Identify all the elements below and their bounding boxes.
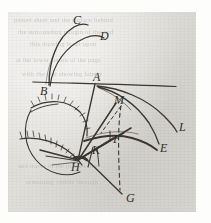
label-M: M: [113, 93, 125, 107]
arc-B-to-C: [49, 24, 88, 85]
line-H-to-G: [84, 157, 122, 194]
label-A: A: [92, 70, 101, 84]
label-C: C: [73, 13, 82, 27]
hatched-arc-upper: [31, 94, 90, 136]
diagram-page: pasted sheet and the surface behind the …: [0, 0, 211, 223]
label-E: E: [159, 141, 168, 155]
dashed-line-to-G: [119, 106, 121, 190]
label-B: B: [40, 84, 48, 98]
label-K: K: [91, 143, 101, 157]
circle-arc-upper-segment: [31, 104, 58, 112]
diagram-ink-layer: C D B A M L E F K H G: [0, 0, 211, 223]
label-G: G: [126, 191, 135, 205]
baseline-through-B-and-A: [33, 82, 176, 87]
label-H: H: [70, 160, 81, 174]
label-D: D: [99, 29, 109, 43]
label-F: F: [112, 132, 121, 146]
label-L: L: [178, 120, 186, 134]
